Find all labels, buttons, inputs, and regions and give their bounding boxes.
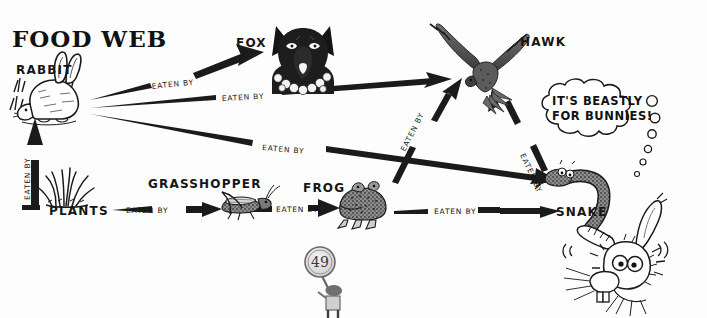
food-web-diagram: FOOD WEB RABBIT FOX HAWK PLANTS GRASSHOP… [0, 0, 707, 318]
edge-label-rabbit-fox: EATEN BY [151, 78, 194, 91]
edge-label-plants-grasshopper: EATEN BY [126, 206, 168, 215]
edge-label-grasshopper-frog: EATEN BY [276, 205, 318, 214]
node-label-fox: FOX [236, 36, 267, 50]
edge-label-rabbit-snake: EATEN BY [262, 143, 305, 156]
node-label-snake: SNAKE [556, 205, 607, 219]
page-number: 49 [311, 254, 329, 270]
node-label-hawk: HAWK [520, 35, 566, 49]
thought-bubble-line-2: FOR BUNNIES! [552, 109, 653, 123]
edge-label-frog-snake: EATEN BY [434, 207, 476, 216]
node-label-frog: FROG [303, 181, 345, 195]
node-label-plants: PLANTS [49, 204, 109, 218]
page-title: FOOD WEB [12, 25, 167, 52]
edge-label-snake-hawk: EATEN BY [518, 152, 544, 194]
edge-label-rabbit-hawk: EATEN BY [222, 92, 265, 103]
edge-label-plants-rabbit: EATEN BY [23, 158, 32, 200]
thought-bubble-line-1: IT'S BEASTLY [552, 94, 643, 108]
edge-label-frog-hawk: EATEN BY [399, 111, 426, 153]
node-label-rabbit: RABBIT [16, 63, 73, 77]
node-label-grasshopper: GRASSHOPPER [148, 177, 262, 191]
